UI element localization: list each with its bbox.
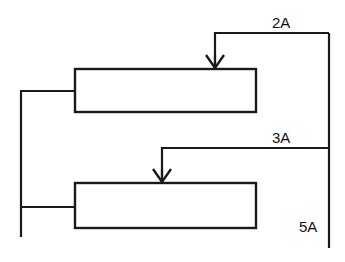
left-return-loop-path (21, 91, 75, 237)
stream-label-2a: 2A (272, 14, 290, 31)
arrow-into-bottom-unit-icon (153, 169, 171, 183)
stream-3a-path (162, 148, 329, 169)
stream-2a-path (215, 33, 329, 55)
unit-top-block (75, 69, 256, 112)
unit-bottom-block (75, 183, 256, 228)
process-flow-diagram: 2A 3A 5A (0, 0, 345, 262)
arrow-into-top-unit-icon (206, 55, 224, 69)
flow-diagram-canvas: 2A 3A 5A (0, 0, 345, 262)
stream-label-5a: 5A (299, 218, 317, 235)
stream-label-3a: 3A (272, 129, 290, 146)
